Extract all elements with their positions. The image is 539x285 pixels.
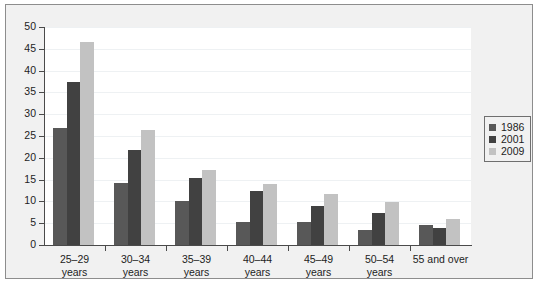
- bar-1986-35–39: [175, 201, 189, 245]
- gridline: [44, 158, 471, 159]
- y-tick-mark: [39, 92, 44, 93]
- bar-2001-25–29: [67, 82, 81, 245]
- gridline: [44, 92, 471, 93]
- y-tick-mark: [39, 201, 44, 202]
- legend-item-2009[interactable]: 2009: [489, 145, 524, 157]
- bar-2001-50–54: [372, 213, 386, 245]
- bar-2009-50–54: [385, 202, 399, 245]
- x-axis-group-label-line: 55 and over: [402, 253, 479, 266]
- y-tick-label: 35: [6, 86, 36, 97]
- y-tick-label: 5: [6, 217, 36, 228]
- legend-item-1986[interactable]: 1986: [489, 121, 524, 133]
- gridline: [44, 180, 471, 181]
- gridline: [44, 71, 471, 72]
- y-tick-mark: [39, 223, 44, 224]
- bar-1986-30–34: [114, 183, 128, 245]
- y-tick-label: 0: [6, 239, 36, 250]
- y-tick-label: 45: [6, 43, 36, 54]
- y-axis-line: [44, 27, 45, 246]
- x-axis-group-label-line: years: [341, 266, 418, 279]
- x-tick-mark: [227, 246, 228, 251]
- x-tick-mark: [288, 246, 289, 251]
- y-tick-mark: [39, 245, 44, 246]
- gridline: [44, 136, 471, 137]
- y-tick-label: 30: [6, 108, 36, 119]
- bar-2001-45–49: [311, 206, 325, 245]
- y-tick-mark: [39, 114, 44, 115]
- legend-label: 2001: [501, 134, 524, 145]
- y-tick-mark: [39, 158, 44, 159]
- bar-1986-45–49: [297, 222, 311, 245]
- gridline: [44, 49, 471, 50]
- y-tick-label: 10: [6, 195, 36, 206]
- y-tick-mark: [39, 180, 44, 181]
- bar-chart-figure: 05101520253035404550 25–29years30–34year…: [0, 0, 539, 285]
- x-tick-mark: [105, 246, 106, 251]
- x-tick-mark: [349, 246, 350, 251]
- y-tick-label: 15: [6, 174, 36, 185]
- bar-2001-30–34: [128, 150, 142, 245]
- legend-swatch-icon: [489, 124, 496, 131]
- bar-2001-40–44: [250, 191, 264, 245]
- bar-1986-50–54: [358, 230, 372, 245]
- legend: 198620012009: [484, 116, 531, 162]
- legend-item-2001[interactable]: 2001: [489, 133, 524, 145]
- plot-area: [44, 27, 471, 245]
- bar-1986-40–44: [236, 222, 250, 245]
- x-tick-mark: [410, 246, 411, 251]
- legend-label: 1986: [501, 122, 524, 133]
- gridline: [44, 27, 471, 28]
- y-tick-mark: [39, 27, 44, 28]
- x-axis-group-label: 55 and over: [402, 253, 479, 266]
- legend-swatch-icon: [489, 148, 496, 155]
- y-tick-mark: [39, 71, 44, 72]
- bar-1986-55 and over: [419, 225, 433, 245]
- gridline: [44, 114, 471, 115]
- y-tick-label: 40: [6, 65, 36, 76]
- y-tick-mark: [39, 136, 44, 137]
- bar-2009-30–34: [141, 130, 155, 245]
- bar-2001-35–39: [189, 178, 203, 245]
- bar-2009-40–44: [263, 184, 277, 245]
- x-tick-mark: [166, 246, 167, 251]
- bar-2009-55 and over: [446, 219, 460, 245]
- bar-2001-55 and over: [433, 228, 447, 245]
- bar-2009-25–29: [80, 42, 94, 245]
- legend-label: 2009: [501, 146, 524, 157]
- chart-panel: 05101520253035404550 25–29years30–34year…: [5, 4, 533, 279]
- y-tick-mark: [39, 49, 44, 50]
- bar-2009-45–49: [324, 194, 338, 245]
- y-tick-label: 25: [6, 130, 36, 141]
- legend-swatch-icon: [489, 136, 496, 143]
- bar-1986-25–29: [53, 128, 67, 245]
- x-axis-line: [44, 245, 472, 246]
- bar-2009-35–39: [202, 170, 216, 245]
- y-tick-label: 20: [6, 152, 36, 163]
- y-tick-label: 50: [6, 21, 36, 32]
